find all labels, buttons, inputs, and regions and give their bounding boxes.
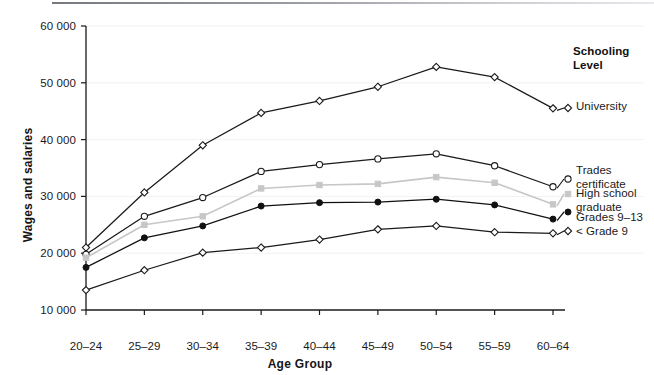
y-axis-title: Wages and salaries [21,95,35,275]
x-axis-tick-label: 60–64 [537,340,569,352]
x-axis-tick-label: 40–44 [303,340,335,352]
legend-label-0: University [576,100,654,114]
chart-page: 10 00020 00030 00040 00050 00060 000 20–… [0,0,654,375]
x-axis-tick-label: 35–39 [245,340,277,352]
x-axis-title: Age Group [0,357,600,371]
x-axis-tick-labels: 20–2425–2930–3435–3940–4445–4950–5455–59… [0,0,654,375]
x-axis-tick-label: 45–49 [362,340,394,352]
x-axis-tick-label: 25–29 [128,340,160,352]
legend-label-4: < Grade 9 [576,225,654,239]
legend-entries: UniversityTrades certificateHigh school … [576,0,654,375]
x-axis-tick-label: 30–34 [187,340,219,352]
line-chart: 10 00020 00030 00040 00050 00060 000 20–… [0,0,654,375]
x-axis-tick-label: 55–59 [478,340,510,352]
x-axis-tick-label: 20–24 [70,340,102,352]
legend-label-3: Grades 9–13 [576,211,654,225]
x-axis-tick-label: 50–54 [420,340,452,352]
